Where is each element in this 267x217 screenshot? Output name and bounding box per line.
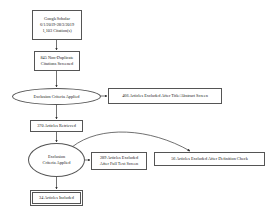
node-excluded-fulltext-line-2: After Full Text Screen bbox=[100, 161, 138, 167]
node-excluded-definition: 56 Articles Excluded After Definition Ch… bbox=[154, 152, 265, 166]
node-included-line-1: 34 Articles Included bbox=[39, 195, 74, 201]
node-retrieved: 370 Articles Retrieved bbox=[30, 120, 83, 132]
node-excluded-title: 466 Articles Excluded After Title/Abstra… bbox=[108, 88, 222, 104]
node-criteria1: Exclusion Criteria Applied bbox=[12, 88, 101, 105]
node-included: 34 Articles Included bbox=[32, 192, 81, 204]
node-source: GoogleScholar 6/1/2019-28/3/2019 1,103 C… bbox=[32, 10, 82, 40]
node-retrieved-line-1: 370 Articles Retrieved bbox=[37, 123, 76, 129]
edge-criteria2-excluded-definition bbox=[72, 132, 190, 151]
node-excluded-title-line-1: 466 Articles Excluded After Title/Abstra… bbox=[122, 93, 208, 99]
node-excluded-fulltext: 289 Articles Excluded After Full Text Sc… bbox=[91, 152, 147, 170]
node-dedup: 845 Non-Duplicate Citations Screened bbox=[34, 51, 80, 71]
node-source-line-3: 1,103 Citation(s) bbox=[42, 28, 71, 34]
node-criteria1-line-1: Exclusion Criteria Applied bbox=[33, 94, 79, 100]
node-dedup-line-2: Citations Screened bbox=[41, 61, 73, 67]
node-criteria2: Exclusion Criteria Applied bbox=[28, 143, 85, 177]
node-criteria2-line-2: Criteria Applied bbox=[43, 160, 71, 166]
node-excluded-definition-line-1: 56 Articles Excluded After Definition Ch… bbox=[171, 156, 248, 162]
